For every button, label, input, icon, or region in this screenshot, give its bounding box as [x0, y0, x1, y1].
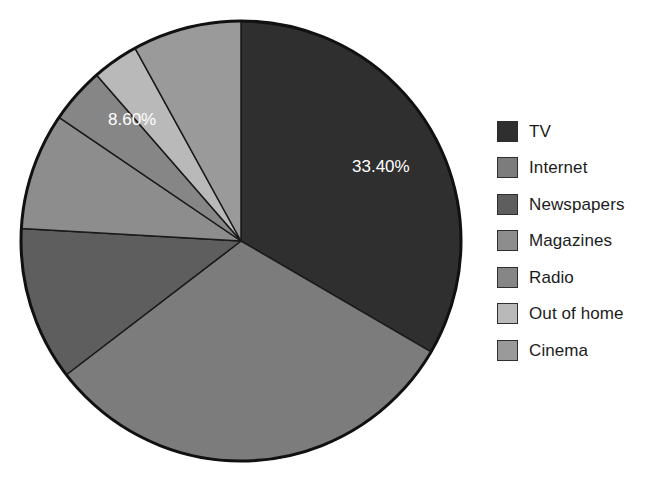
pie-slices-group	[21, 21, 461, 461]
legend-swatch-icon	[497, 340, 518, 361]
legend-item-magazines[interactable]: Magazines	[497, 223, 647, 260]
legend-item-internet[interactable]: Internet	[497, 150, 647, 187]
legend-item-label: Magazines	[529, 232, 612, 249]
legend-item-radio[interactable]: Radio	[497, 259, 647, 296]
legend-item-out-of-home[interactable]: Out of home	[497, 296, 647, 333]
legend-item-newspapers[interactable]: Newspapers	[497, 186, 647, 223]
legend-item-tv[interactable]: TV	[497, 113, 647, 150]
legend-item-label: TV	[529, 123, 551, 140]
legend-item-label: Out of home	[529, 305, 624, 322]
legend-swatch-icon	[497, 230, 518, 251]
legend-item-label: Internet	[529, 159, 587, 176]
legend-swatch-icon	[497, 267, 518, 288]
pie-chart-figure: 33.40%8.60% TVInternetNewspapersMagazine…	[0, 0, 650, 494]
legend-item-label: Cinema	[529, 342, 588, 359]
legend-item-cinema[interactable]: Cinema	[497, 332, 647, 369]
legend-swatch-icon	[497, 157, 518, 178]
legend-swatch-icon	[497, 194, 518, 215]
legend-swatch-icon	[497, 303, 518, 324]
legend-item-label: Newspapers	[529, 196, 625, 213]
legend-item-label: Radio	[529, 269, 574, 286]
pie-slice-label-tv: 33.40%	[352, 157, 410, 176]
pie-slice-label-magazines: 8.60%	[108, 110, 156, 129]
legend-swatch-icon	[497, 121, 518, 142]
chart-legend: TVInternetNewspapersMagazinesRadioOut of…	[497, 113, 647, 369]
